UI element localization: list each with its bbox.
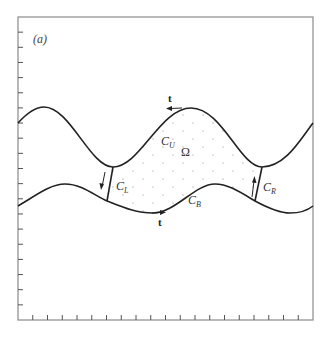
- left-cut-arrow-icon: [100, 172, 106, 190]
- region-omega-label: Ω: [181, 145, 190, 159]
- right-boundary-label: CR: [263, 180, 276, 196]
- bottom-boundary-label: CB: [188, 193, 201, 209]
- bottom-axis-ticks: [33, 315, 299, 320]
- upper-tangent-label: t: [168, 92, 172, 104]
- left-axis-ticks: [18, 32, 23, 305]
- bottom-tangent-label: t: [158, 216, 162, 228]
- domain-diagram: t t (a) Ω CU CL CB CR: [0, 0, 331, 341]
- panel-label: (a): [33, 32, 47, 46]
- omega-region-fill: [100, 100, 270, 220]
